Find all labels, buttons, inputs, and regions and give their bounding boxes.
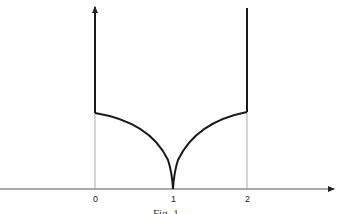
tick-label-1: 1 (171, 194, 176, 204)
tick-label-2: 2 (245, 194, 250, 204)
diagram-canvas: 0 1 2 Fig. 1 (0, 0, 338, 214)
right-arc (173, 112, 247, 189)
figure-caption: Fig. 1 (153, 207, 179, 214)
left-arc (95, 113, 173, 189)
tick-label-0: 0 (93, 194, 98, 204)
